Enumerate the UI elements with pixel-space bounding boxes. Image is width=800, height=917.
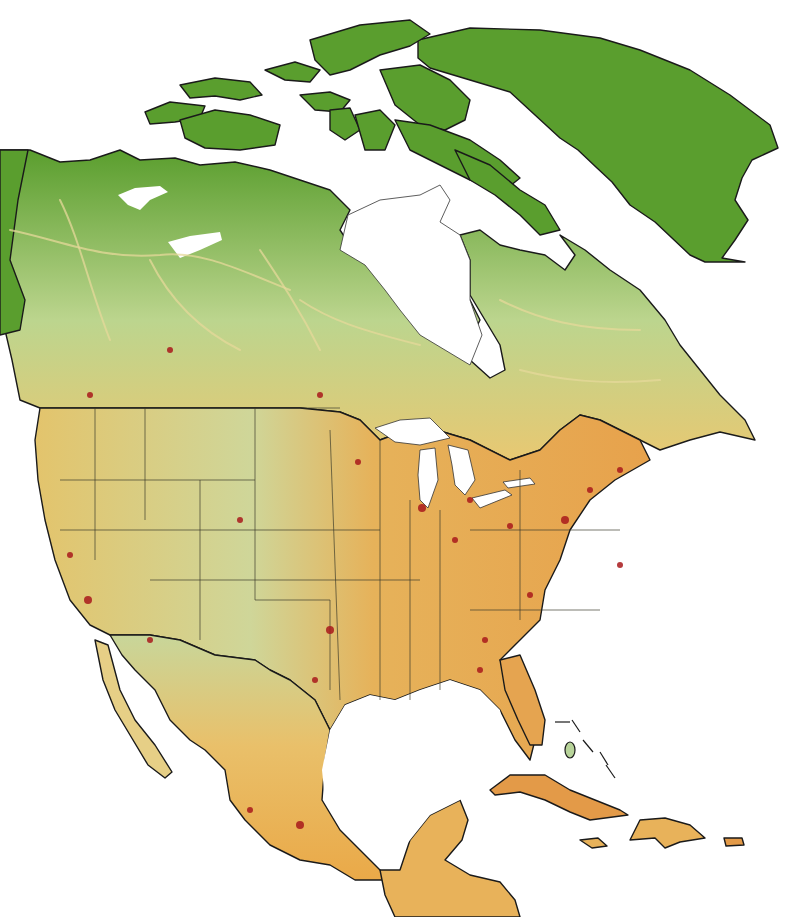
- bahamas: [555, 720, 615, 778]
- cuba: [490, 775, 628, 820]
- puerto-rico: [724, 838, 744, 846]
- gulf-of-mexico: [322, 680, 505, 860]
- jamaica: [580, 838, 607, 848]
- hispaniola: [630, 818, 705, 848]
- north-america-map: [0, 0, 800, 917]
